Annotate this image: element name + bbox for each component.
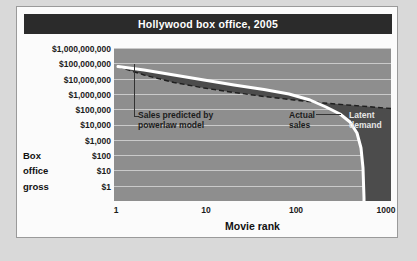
x-tick-label: 1000 [377, 205, 396, 215]
y-axis-title-line: Box [23, 148, 75, 163]
y-axis-title: Box office gross [23, 148, 75, 194]
y-tick-label: $100,000 [35, 104, 111, 119]
actual-sales-annotation: Actual sales [289, 110, 315, 130]
powerlaw-leader-line [134, 64, 135, 117]
x-axis-title: Movie rank [114, 220, 391, 232]
y-tick-label: $1,000,000,000 [35, 43, 111, 58]
y-tick-label: $100,000,000 [35, 58, 111, 73]
latent-demand-annotation: Latent demand [349, 110, 382, 130]
actual-sales-leader-line [316, 114, 341, 115]
y-tick-label: $10,000 [35, 119, 111, 134]
y-axis-title-line: gross [23, 179, 75, 194]
page-title: Hollywood box office, 2005 [138, 18, 278, 30]
chart-title-bar: Hollywood box office, 2005 [24, 14, 392, 34]
x-tick-label: 1 [114, 205, 119, 215]
actual-sales-line [118, 67, 364, 202]
y-tick-label: $10,000,000 [35, 74, 111, 89]
x-tick-label: 100 [289, 205, 303, 215]
powerlaw-annotation: Sales predicted by powerlaw model [138, 110, 213, 130]
x-tick-label: 10 [201, 205, 210, 215]
x-axis-tick-labels: 1 10 100 1000 [114, 205, 391, 219]
chart-figure: Hollywood box office, 2005 $1,000,000,00… [16, 6, 398, 238]
y-tick-label: $1,000,000 [35, 89, 111, 104]
y-axis-title-line: office [23, 163, 75, 178]
